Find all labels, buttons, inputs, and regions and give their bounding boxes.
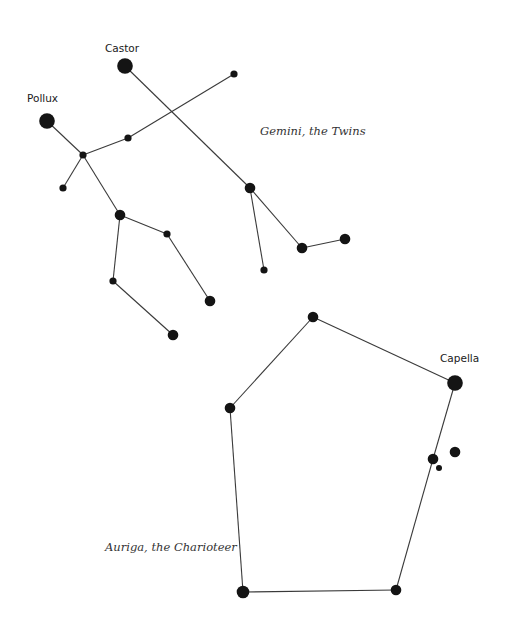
auriga-line-a7-a1 — [230, 317, 313, 408]
star-chart: Castor Pollux Capella Gemini, the Twins … — [0, 0, 506, 623]
star-a3 — [450, 447, 461, 458]
star-a1 — [308, 312, 319, 323]
star-g6 — [124, 134, 131, 141]
gemini-line-g9-g11 — [113, 215, 120, 281]
star-g1 — [230, 70, 237, 77]
gemini-line-g7-g9 — [83, 155, 120, 215]
gemini-line-g2-g3 — [250, 188, 302, 248]
labels: Castor Pollux Capella Gemini, the Twins … — [27, 42, 479, 554]
star-pollux — [39, 113, 55, 129]
star-g12 — [205, 296, 216, 307]
auriga-line-capella-a2 — [433, 383, 455, 459]
star-a2 — [428, 454, 439, 465]
star-g9 — [115, 210, 126, 221]
star-label-pollux: Pollux — [27, 92, 58, 104]
constellation-diagram: Castor Pollux Capella Gemini, the Twins … — [0, 0, 506, 623]
star-g3 — [297, 243, 308, 254]
auriga-line-a1-capella — [313, 317, 455, 383]
constellation-label-auriga: Auriga, the Charioteer — [104, 540, 238, 554]
gemini-line-g3-g4 — [302, 239, 345, 248]
star-label-castor: Castor — [105, 42, 140, 54]
star-label-capella: Capella — [440, 352, 479, 364]
star-a7 — [225, 403, 236, 414]
star-g5 — [260, 266, 267, 273]
stars — [39, 58, 463, 598]
gemini-line-g2-g5 — [250, 188, 264, 270]
star-a5 — [391, 585, 402, 596]
star-g10 — [163, 230, 170, 237]
star-g7 — [79, 151, 86, 158]
star-g11 — [109, 277, 116, 284]
gemini-line-g9-g10 — [120, 215, 167, 234]
gemini-line-g1-g6 — [128, 74, 234, 138]
star-g13 — [168, 330, 179, 341]
auriga-line-a2-a5 — [396, 459, 433, 590]
auriga-line-a5-a6 — [243, 590, 396, 592]
gemini-line-g11-g13 — [113, 281, 173, 335]
star-g2 — [245, 183, 256, 194]
star-a4 — [436, 465, 442, 471]
star-capella — [447, 375, 463, 391]
star-a6 — [237, 586, 250, 599]
constellation-label-gemini: Gemini, the Twins — [260, 124, 366, 138]
auriga-line-a6-a7 — [230, 408, 243, 592]
gemini-line-castor-g2 — [125, 66, 250, 188]
star-castor — [117, 58, 133, 74]
star-g4 — [340, 234, 351, 245]
star-g8 — [59, 184, 66, 191]
gemini-line-g6-g7 — [83, 138, 128, 155]
gemini-line-g10-g12 — [167, 234, 210, 301]
constellation-lines — [47, 66, 455, 592]
gemini-line-g7-g8 — [63, 155, 83, 188]
